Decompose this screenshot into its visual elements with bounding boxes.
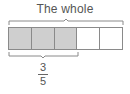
cell-shaded [55, 28, 78, 49]
whole-bracket [9, 19, 123, 25]
fraction-denominator: 5 [36, 76, 50, 87]
cell-shaded [9, 28, 32, 49]
fraction-label: 3 5 [36, 62, 50, 87]
cell-empty [100, 28, 122, 49]
cell-shaded [32, 28, 55, 49]
fraction-bar [8, 27, 123, 50]
cell-empty [77, 28, 100, 49]
part-bracket [9, 52, 78, 58]
fraction-numerator: 3 [36, 62, 50, 73]
